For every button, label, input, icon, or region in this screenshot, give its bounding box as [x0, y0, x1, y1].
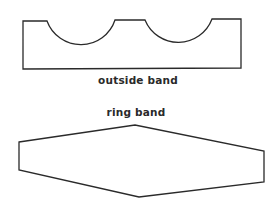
outside-band-shape: [23, 19, 241, 69]
band-shapes-diagram: [0, 0, 276, 205]
outside-band-label: outside band: [98, 74, 178, 86]
ring-band-label: ring band: [107, 106, 166, 118]
ring-band-shape: [19, 125, 264, 197]
